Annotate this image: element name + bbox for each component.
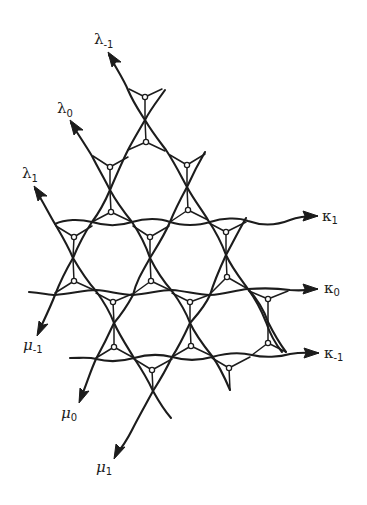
label-kappa-0: κ0 [324,279,340,298]
vertex-node [71,234,76,239]
vertex-node [265,296,270,301]
label-lambda-minus-1: λ-1 [94,30,114,50]
label-mu-minus-1: μ-1 [23,336,43,355]
vertex-node [110,299,115,304]
vertex-node [223,229,228,234]
vertex-node [142,94,147,99]
label-kappa-minus-1: κ-1 [324,344,343,363]
vertex-node [224,274,229,279]
vertex-node [185,207,190,212]
vertex-node [187,299,192,304]
strand-lambda-minus-1 [109,55,282,352]
vertex-node [111,344,116,349]
label-kappa-1: κ1 [322,207,338,226]
vertex-node [265,340,270,345]
strand-mu-0 [80,152,205,400]
arrow-kappa-minus-1 [304,348,319,358]
vertex-node [143,139,148,144]
vertex-node [149,367,154,372]
kappa-strands [29,211,319,361]
vertex-node [147,234,152,239]
vertex-node [184,162,189,167]
vertex-node [107,164,112,169]
arrow-kappa-0 [303,284,318,294]
label-mu-0: μ0 [61,404,77,423]
strand-kappa-minus-1 [70,353,318,361]
arrow-kappa-1 [303,211,318,221]
label-mu-1: μ1 [96,458,112,477]
vertex-node [188,343,193,348]
vertex-node [148,278,153,283]
vertex-node [108,209,113,214]
label-lambda-1: λ1 [22,164,38,184]
strand-lambda-1 [35,189,171,418]
label-lambda-0: λ0 [57,99,73,119]
lattice-diagram: λ-1 λ0 λ1 κ1 κ0 κ-1 μ-1 μ0 μ1 [0,0,367,505]
vertex-node [71,278,76,283]
vertex-nodes [71,94,270,372]
vertex-node [226,365,231,370]
vertex-spokes [55,89,288,391]
